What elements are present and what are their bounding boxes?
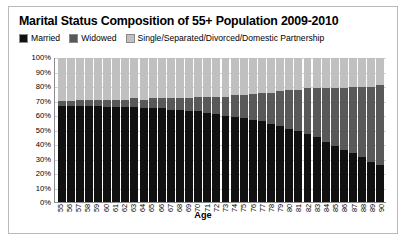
bar-segment (376, 58, 384, 85)
bar-stack (67, 58, 75, 202)
bar-stack (130, 58, 138, 202)
bar-segment (313, 58, 321, 88)
bar-segment (158, 108, 166, 202)
bar-segment (276, 91, 284, 126)
bar-stack (322, 58, 330, 202)
bar-stack (231, 58, 239, 202)
bar-stack (367, 58, 375, 202)
bar-segment (58, 106, 66, 202)
bar-stack (331, 58, 339, 202)
bar-stack (376, 58, 384, 202)
bar-segment (267, 124, 275, 202)
bar-stack (167, 58, 175, 202)
y-axis-tick-label: 50% (36, 126, 51, 136)
bar-segment (103, 100, 111, 107)
bar-segment (167, 98, 175, 110)
bar-stack (240, 58, 248, 202)
y-axis-tick-label: 100% (32, 53, 51, 63)
bar-stack (103, 58, 111, 202)
bar-segment (349, 153, 357, 202)
bar-segment (194, 58, 202, 97)
bar-segment (85, 58, 93, 100)
bar-stack (340, 58, 348, 202)
bar-segment (103, 58, 111, 100)
bar-segment (276, 126, 284, 202)
bar-segment (240, 58, 248, 95)
bar-stack (349, 58, 357, 202)
bar-segment (112, 107, 120, 202)
bar-stack (112, 58, 120, 202)
y-axis-tick-label: 40% (36, 140, 51, 150)
chart-title: Marital Status Composition of 55+ Popula… (19, 14, 338, 28)
y-axis-tick-label: 80% (36, 82, 51, 92)
bar-stack (121, 58, 129, 202)
bar-segment (313, 137, 321, 202)
y-axis-tick-label: 20% (36, 169, 51, 179)
bar-segment (212, 58, 220, 97)
legend-item-married: Married (19, 33, 60, 43)
legend-swatch-widowed (69, 34, 78, 43)
bar-segment (158, 98, 166, 108)
bar-segment (112, 58, 120, 100)
legend-swatch-married (19, 34, 28, 43)
bar-segment (130, 107, 138, 202)
bar-segment (67, 106, 75, 202)
bar-segment (222, 58, 230, 97)
bar-segment (322, 142, 330, 202)
bar-segment (149, 58, 157, 98)
bar-segment (322, 88, 330, 141)
bar-stack (304, 58, 312, 202)
legend-label-married: Married (31, 33, 60, 43)
bar-segment (240, 95, 248, 118)
bar-stack (267, 58, 275, 202)
bar-segment (249, 94, 257, 120)
bar-segment (358, 87, 366, 158)
legend-item-single: Single/Separated/Divorced/Domestic Partn… (126, 33, 325, 43)
bar-segment (358, 58, 366, 87)
bar-segment (103, 107, 111, 202)
bar-stack (212, 58, 220, 202)
bar-segment (340, 58, 348, 88)
bar-segment (313, 88, 321, 137)
bar-segment (149, 98, 157, 108)
bar-segment (340, 88, 348, 150)
bar-stack (358, 58, 366, 202)
bar-segment (331, 88, 339, 146)
bar-segment (94, 106, 102, 202)
bar-segment (231, 58, 239, 95)
legend-label-single: Single/Separated/Divorced/Domestic Partn… (138, 33, 325, 43)
bar-segment (231, 117, 239, 202)
bar-segment (85, 106, 93, 202)
bar-segment (140, 100, 148, 109)
bar-segment (194, 111, 202, 202)
bar-segment (376, 165, 384, 202)
bar-segment (76, 106, 84, 202)
y-axis-tick-label: 70% (36, 97, 51, 107)
bar-segment (222, 116, 230, 202)
plot-area (54, 58, 386, 203)
bar-stack (149, 58, 157, 202)
bar-segment (167, 58, 175, 98)
bar-segment (304, 58, 312, 88)
y-axis-tick-label: 60% (36, 111, 51, 121)
bar-segment (294, 131, 302, 202)
bar-series-container (56, 58, 386, 202)
bar-segment (167, 110, 175, 202)
bar-segment (358, 157, 366, 202)
bar-stack (203, 58, 211, 202)
bar-stack (194, 58, 202, 202)
bar-stack (313, 58, 321, 202)
bar-segment (112, 100, 120, 107)
bar-segment (67, 58, 75, 101)
bar-segment (258, 93, 266, 122)
y-axis-tick-label: 10% (36, 184, 51, 194)
y-axis-tick-label: 30% (36, 155, 51, 165)
bar-segment (121, 100, 129, 107)
bar-segment (367, 58, 375, 87)
bar-stack (222, 58, 230, 202)
bar-segment (331, 58, 339, 88)
bar-segment (367, 162, 375, 202)
bar-segment (294, 58, 302, 90)
bar-segment (130, 98, 138, 107)
bar-segment (376, 85, 384, 164)
